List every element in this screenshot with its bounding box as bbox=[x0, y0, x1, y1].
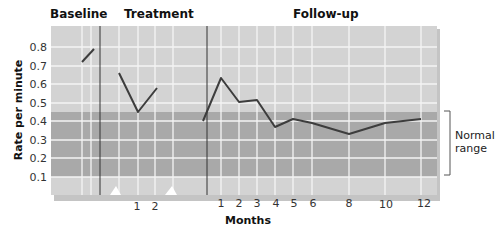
y-tick: 0.8 bbox=[30, 41, 48, 54]
y-tick: 0.5 bbox=[30, 97, 48, 110]
x-tick: 1 bbox=[218, 197, 225, 210]
chart: Baseline Treatment Follow-up 0.8 0.7 0.6… bbox=[0, 0, 500, 235]
x-axis-label: Months bbox=[225, 214, 271, 227]
y-tick: 0.4 bbox=[30, 115, 48, 128]
y-tick: 0.3 bbox=[30, 134, 48, 147]
normal-range-label-2: range bbox=[455, 142, 487, 155]
x-tick: 5 bbox=[291, 197, 298, 210]
x-tick: 10 bbox=[379, 198, 393, 211]
y-tick: 0.6 bbox=[30, 78, 48, 91]
x-tick: 3 bbox=[254, 197, 261, 210]
x-tick: 4 bbox=[273, 197, 280, 210]
phase-label-treatment: Treatment bbox=[124, 7, 194, 21]
y-tick: 0.1 bbox=[30, 171, 48, 184]
phase-label-baseline: Baseline bbox=[50, 7, 107, 21]
y-tick: 0.2 bbox=[30, 152, 48, 165]
x-tick: 1 bbox=[134, 200, 141, 213]
normal-range-label-1: Normal bbox=[455, 129, 495, 142]
y-tick: 0.7 bbox=[30, 60, 48, 73]
x-tick: 2 bbox=[152, 200, 159, 213]
x-tick: 8 bbox=[346, 197, 353, 210]
y-ticks: 0.8 0.7 0.6 0.5 0.4 0.3 0.2 0.1 bbox=[30, 41, 48, 184]
x-tick: 2 bbox=[236, 197, 243, 210]
normal-range-band bbox=[51, 112, 437, 177]
x-tick: 12 bbox=[417, 197, 431, 210]
normal-range-bracket bbox=[444, 111, 450, 175]
phase-label-followup: Follow-up bbox=[293, 7, 359, 21]
x-tick: 6 bbox=[310, 197, 317, 210]
y-axis-label: Rate per minute bbox=[12, 60, 25, 161]
